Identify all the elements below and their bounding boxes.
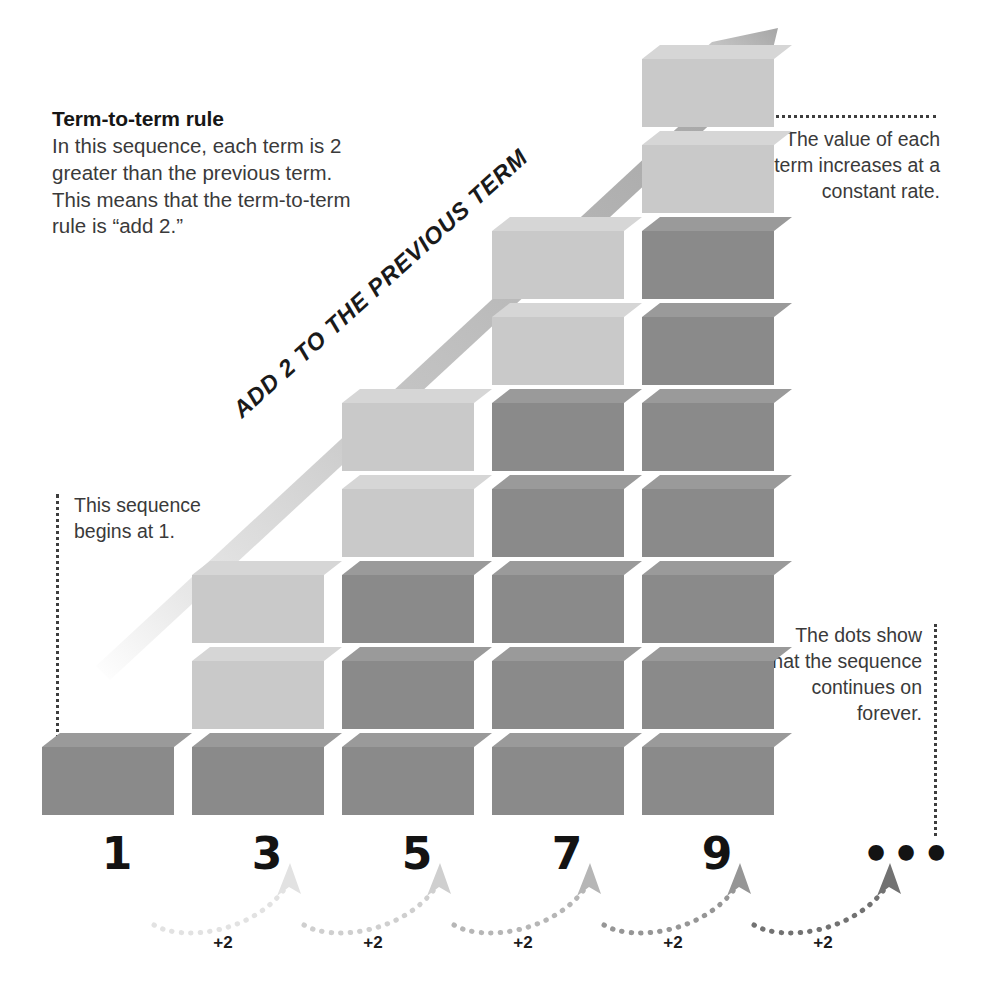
block-cube bbox=[642, 303, 792, 385]
annotation-constant-rate: The value of each term increases at a co… bbox=[768, 126, 940, 204]
block-cube bbox=[642, 475, 792, 557]
term-value-label: 3 bbox=[192, 828, 342, 879]
block-cube bbox=[342, 647, 492, 729]
step-arc bbox=[454, 887, 586, 933]
block-cube bbox=[492, 217, 642, 299]
cube-faces bbox=[192, 561, 342, 643]
step-arc bbox=[754, 887, 886, 933]
block-cube bbox=[192, 733, 342, 815]
ellipsis-dots: ••• bbox=[862, 828, 952, 879]
step-arc bbox=[304, 887, 436, 933]
guide-line-right bbox=[934, 624, 937, 836]
block-cube bbox=[642, 389, 792, 471]
step-increment-label: +2 bbox=[793, 933, 853, 953]
term-to-term-rule-note: Term-to-term rule In this sequence, each… bbox=[52, 105, 372, 240]
term-value-label: 1 bbox=[42, 828, 192, 879]
block-cube bbox=[342, 389, 492, 471]
cube-faces bbox=[492, 389, 642, 471]
step-increment-label: +2 bbox=[343, 933, 403, 953]
block-cube bbox=[492, 303, 642, 385]
term-value-label: 7 bbox=[492, 828, 642, 879]
rule-body-text: In this sequence, each term is 2 greater… bbox=[52, 133, 372, 240]
step-increment-label: +2 bbox=[643, 933, 703, 953]
block-cube bbox=[192, 647, 342, 729]
step-increment-label: +2 bbox=[493, 933, 553, 953]
cube-faces bbox=[192, 733, 342, 815]
cube-faces bbox=[492, 475, 642, 557]
cube-faces bbox=[642, 475, 792, 557]
cube-faces bbox=[342, 647, 492, 729]
block-cube bbox=[492, 475, 642, 557]
block-cube bbox=[642, 217, 792, 299]
cube-faces bbox=[492, 647, 642, 729]
cube-faces bbox=[492, 303, 642, 385]
guide-line-left bbox=[56, 494, 59, 752]
block-cube bbox=[42, 733, 192, 815]
bar-stack bbox=[642, 41, 792, 815]
block-cube bbox=[642, 131, 792, 213]
bar-stack bbox=[342, 385, 492, 815]
rule-heading: Term-to-term rule bbox=[52, 105, 372, 132]
step-increment-label: +2 bbox=[193, 933, 253, 953]
block-cube bbox=[492, 733, 642, 815]
cube-faces bbox=[42, 733, 192, 815]
cube-faces bbox=[642, 45, 792, 127]
cube-faces bbox=[642, 647, 792, 729]
cube-faces bbox=[492, 733, 642, 815]
cube-faces bbox=[492, 217, 642, 299]
cube-faces bbox=[642, 561, 792, 643]
block-cube bbox=[492, 389, 642, 471]
block-cube bbox=[642, 733, 792, 815]
block-cube bbox=[642, 647, 792, 729]
cube-faces bbox=[642, 303, 792, 385]
cube-faces bbox=[642, 217, 792, 299]
block-cube bbox=[642, 561, 792, 643]
block-cube bbox=[342, 561, 492, 643]
cube-faces bbox=[642, 733, 792, 815]
block-cube bbox=[642, 45, 792, 127]
diagram-canvas: ADD 2 TO THE PREVIOUS TERM Term-to-term … bbox=[0, 0, 990, 991]
block-cube bbox=[342, 475, 492, 557]
term-value-label: 9 bbox=[642, 828, 792, 879]
block-cube bbox=[492, 647, 642, 729]
cube-faces bbox=[342, 475, 492, 557]
bar-stack bbox=[192, 557, 342, 815]
cube-faces bbox=[342, 733, 492, 815]
cube-faces bbox=[342, 389, 492, 471]
bar-stack bbox=[492, 213, 642, 815]
term-value-label: 5 bbox=[342, 828, 492, 879]
bar-stack bbox=[42, 729, 192, 815]
block-cube bbox=[342, 733, 492, 815]
cube-faces bbox=[642, 389, 792, 471]
annotation-begins-at-one: This sequence begins at 1. bbox=[74, 492, 224, 544]
block-cube bbox=[492, 561, 642, 643]
cube-faces bbox=[342, 561, 492, 643]
block-cube bbox=[192, 561, 342, 643]
cube-faces bbox=[642, 131, 792, 213]
cube-faces bbox=[492, 561, 642, 643]
step-arc bbox=[154, 887, 286, 933]
cube-faces bbox=[192, 647, 342, 729]
step-arc bbox=[604, 887, 736, 933]
